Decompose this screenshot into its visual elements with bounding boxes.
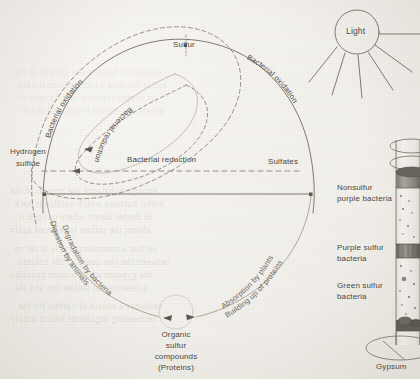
- node-label-organic-2: sulfur: [146, 341, 206, 350]
- node-label-organic-1: Organic: [146, 330, 206, 339]
- node-label-sulfur: Sulfur: [163, 40, 205, 49]
- column-label-nonsulfur-1: Nonsulfur: [337, 183, 373, 192]
- column-label-purple-1: Purple sulfur: [337, 243, 384, 252]
- node-label-organic-3: compounds: [140, 352, 212, 361]
- column-layer-nonsulfur-purple: [396, 167, 420, 188]
- column-label-nonsulfur-2: purple bacteria: [337, 194, 392, 203]
- node-label-sulfide: sulfide: [0, 159, 56, 168]
- column-label-purple-2: bacteria: [337, 254, 367, 263]
- label-bacterial-reduction-horizontal: Bacterial reduction: [127, 155, 196, 164]
- light-label: Light: [346, 26, 365, 36]
- column-label-gypsum: Gypsum: [376, 362, 407, 371]
- node-label-hydrogen: Hydrogen: [0, 147, 56, 156]
- column-layer-purple-sulfur: [396, 244, 420, 258]
- column-label-green-2: bacteria: [337, 292, 367, 301]
- node-label-sulfates: Sulfates: [268, 157, 298, 166]
- node-label-organic-4: (Proteins): [146, 363, 206, 372]
- column-label-green-1: Green sulfur: [337, 281, 383, 290]
- figure-page: enough to balance the growth of thesulfu…: [0, 0, 420, 379]
